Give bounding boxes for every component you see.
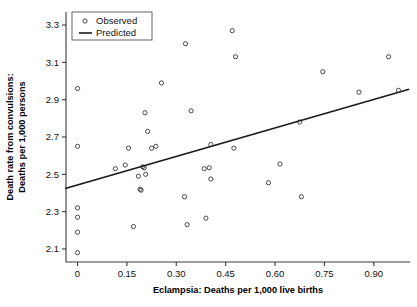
observed-data-point[interactable]: [75, 206, 79, 210]
y-tick-label: 2.9: [46, 94, 59, 105]
y-tick-label: 2.3: [46, 206, 59, 217]
observed-data-point[interactable]: [75, 230, 79, 234]
observed-data-point[interactable]: [159, 81, 163, 85]
y-tick-label: 2.7: [46, 131, 59, 142]
legend-label-predicted: Predicted: [96, 27, 136, 38]
observed-data-point[interactable]: [75, 86, 79, 90]
x-tick-label: 0: [75, 268, 80, 279]
axis-spines: [66, 12, 410, 262]
chart-figure: 2.12.32.52.72.93.13.300.150.300.450.600.…: [0, 0, 417, 307]
y-tick-label: 3.3: [46, 19, 59, 30]
observed-data-point[interactable]: [230, 29, 234, 33]
observed-data-point[interactable]: [202, 167, 206, 171]
y-tick-label: 2.5: [46, 169, 59, 180]
observed-data-point[interactable]: [139, 188, 143, 192]
y-axis-title-line1: Death rate from convulsions:: [5, 73, 15, 200]
observed-data-point[interactable]: [123, 163, 127, 167]
observed-data-point[interactable]: [189, 109, 193, 113]
observed-data-point[interactable]: [209, 177, 213, 181]
observed-data-point[interactable]: [266, 181, 270, 185]
observed-data-point[interactable]: [321, 70, 325, 74]
observed-data-point[interactable]: [233, 55, 237, 59]
observed-data-point[interactable]: [113, 167, 117, 171]
observed-data-point[interactable]: [207, 166, 211, 170]
y-tick-label: 2.1: [46, 243, 59, 254]
scatter-plot-svg[interactable]: 2.12.32.52.72.93.13.300.150.300.450.600.…: [0, 0, 417, 307]
observed-data-point[interactable]: [182, 195, 186, 199]
x-tick-label: 0.75: [315, 268, 334, 279]
x-tick-label: 0.60: [266, 268, 285, 279]
observed-data-point[interactable]: [154, 144, 158, 148]
observed-data-point[interactable]: [136, 174, 140, 178]
observed-data-point[interactable]: [75, 251, 79, 255]
observed-data-point[interactable]: [146, 129, 150, 133]
observed-data-point[interactable]: [357, 90, 361, 94]
legend-label-observed: Observed: [96, 15, 137, 26]
observed-data-point[interactable]: [278, 162, 282, 166]
y-tick-label: 3.1: [46, 57, 59, 68]
observed-data-point[interactable]: [299, 195, 303, 199]
x-axis-title: Eclampsia: Deaths per 1,000 live births: [153, 285, 323, 295]
observed-data-point[interactable]: [387, 55, 391, 59]
observed-data-point[interactable]: [126, 146, 130, 150]
predicted-regression-line: [66, 89, 408, 188]
observed-data-point[interactable]: [131, 224, 135, 228]
x-tick-label: 0.15: [118, 268, 137, 279]
x-tick-label: 0.45: [216, 268, 235, 279]
observed-data-point[interactable]: [185, 223, 189, 227]
y-axis-title-line2: Deaths per 1,000 persons: [17, 81, 27, 192]
observed-data-point[interactable]: [75, 144, 79, 148]
observed-data-point[interactable]: [75, 215, 79, 219]
observed-data-point[interactable]: [183, 42, 187, 46]
observed-data-point[interactable]: [204, 216, 208, 220]
observed-data-point[interactable]: [144, 172, 148, 176]
x-tick-label: 0.90: [365, 268, 384, 279]
observed-data-point[interactable]: [149, 146, 153, 150]
observed-data-point[interactable]: [232, 146, 236, 150]
x-tick-label: 0.30: [167, 268, 186, 279]
observed-data-point[interactable]: [143, 111, 147, 115]
